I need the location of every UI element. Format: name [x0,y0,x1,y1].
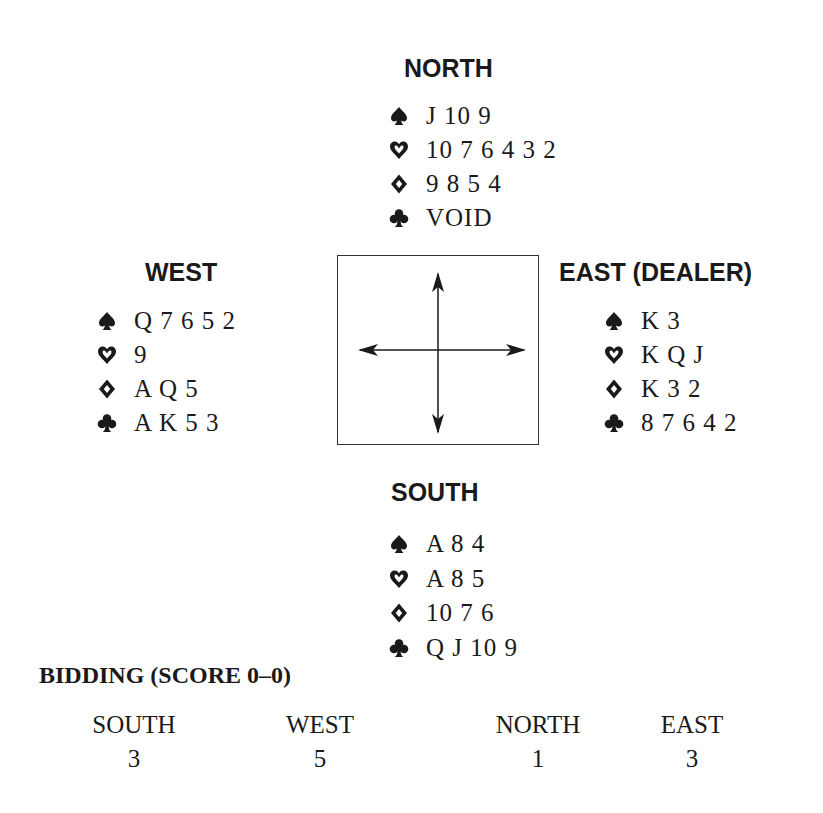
west-diamonds-row: A Q 5 [97,372,199,406]
south-spades: A 8 4 [426,530,485,558]
south-hearts-row: A 8 5 [389,562,485,596]
east-hearts: K Q J [641,341,704,369]
bid-column-east: EAST 3 [622,708,762,776]
north-clubs-row: VOID [389,201,493,235]
north-hearts-row: 10 7 6 4 3 2 [389,133,557,167]
bid-column-west: WEST 5 [250,708,390,776]
east-diamonds: K 3 2 [641,375,702,403]
west-spades-row: Q 7 6 5 2 [97,304,236,338]
spade-icon [389,106,409,126]
bid-column-north: NORTH 1 [468,708,608,776]
club-icon [389,638,409,658]
bid-player: EAST [622,708,762,742]
four-way-arrow-icon [338,256,538,444]
diamond-icon [97,379,117,399]
east-clubs-row: 8 7 6 4 2 [604,406,738,440]
north-hearts: 10 7 6 4 3 2 [426,136,557,164]
club-icon [604,413,624,433]
spade-icon [604,311,624,331]
north-clubs: VOID [426,204,493,232]
east-spades-row: K 3 [604,304,681,338]
west-clubs: A K 5 3 [134,409,219,437]
bid-column-south: SOUTH 3 [64,708,204,776]
west-clubs-row: A K 5 3 [97,406,219,440]
compass-box [337,255,539,445]
south-diamonds: 10 7 6 [426,599,495,627]
heart-icon [389,569,409,589]
east-diamonds-row: K 3 2 [604,372,702,406]
spade-icon [389,534,409,554]
south-hearts: A 8 5 [426,565,485,593]
west-hearts-row: 9 [97,338,148,372]
bidding-title: BIDDING (SCORE 0–0) [39,662,291,689]
west-diamonds: A Q 5 [134,375,199,403]
south-heading: SOUTH [391,478,479,506]
east-clubs: 8 7 6 4 2 [641,409,738,437]
south-clubs-row: Q J 10 9 [389,631,518,665]
spade-icon [97,311,117,331]
north-spades: J 10 9 [426,102,492,130]
bid-value: 3 [64,742,204,776]
diamond-icon [604,379,624,399]
north-diamonds-row: 9 8 5 4 [389,167,502,201]
south-spades-row: A 8 4 [389,527,485,561]
west-heading: WEST [145,258,217,286]
bid-value: 5 [250,742,390,776]
south-diamonds-row: 10 7 6 [389,596,495,630]
bid-player: WEST [250,708,390,742]
west-spades: Q 7 6 5 2 [134,307,236,335]
heart-icon [97,345,117,365]
heart-icon [604,345,624,365]
north-diamonds: 9 8 5 4 [426,170,502,198]
bid-player: SOUTH [64,708,204,742]
bid-player: NORTH [468,708,608,742]
club-icon [97,413,117,433]
north-heading: NORTH [404,54,493,82]
bid-value: 1 [468,742,608,776]
diamond-icon [389,174,409,194]
south-clubs: Q J 10 9 [426,634,518,662]
east-spades: K 3 [641,307,681,335]
west-hearts: 9 [134,341,148,369]
bid-value: 3 [622,742,762,776]
club-icon [389,208,409,228]
east-heading: EAST (DEALER) [559,258,752,286]
north-spades-row: J 10 9 [389,99,492,133]
east-hearts-row: K Q J [604,338,704,372]
diamond-icon [389,603,409,623]
heart-icon [389,140,409,160]
